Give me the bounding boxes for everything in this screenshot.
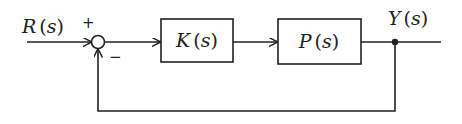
output-label: Y(s) [388,7,428,29]
block-diagram: R(s) + − K(s) P(s) Y(s) [0,0,462,124]
input-label: R(s) [21,15,64,37]
minus-sign: − [109,48,122,66]
plant-label: P(s) [298,30,339,52]
plus-sign: + [82,14,95,32]
controller-label: K(s) [175,29,218,51]
summing-junction [92,36,105,49]
